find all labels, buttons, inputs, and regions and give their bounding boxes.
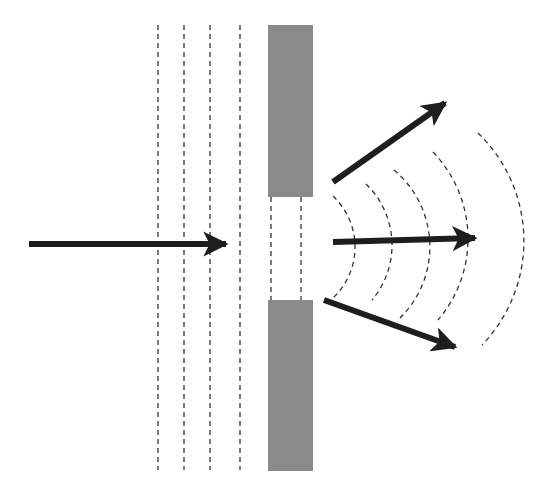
incident-wavefronts <box>158 25 240 470</box>
outgoing-arrow-straight <box>333 238 475 242</box>
outgoing-arrow-down <box>324 300 455 347</box>
diffracted-wavefront-1 <box>333 196 355 298</box>
barrier-bottom <box>268 300 313 471</box>
outgoing-arrow-up <box>333 103 445 182</box>
slit-opening <box>271 197 301 300</box>
barrier-top <box>268 25 313 197</box>
diffraction-diagram <box>0 0 537 496</box>
diffracted-wavefront-3 <box>394 170 430 318</box>
diffracted-wavefront-5 <box>478 133 524 345</box>
